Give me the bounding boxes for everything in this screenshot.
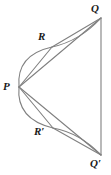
vertex-label-R-prime: R′ [34,126,44,137]
vertex-label-Q: Q [91,3,99,14]
geometry-figure: P Q R R′ Q′ [0,0,111,175]
segment-PQprime [19,87,101,155]
segment-PQ [19,18,101,87]
vertex-label-P: P [3,81,10,92]
segment-RprimeQprime [53,128,101,155]
figure-canvas [0,0,111,175]
segment-RQ [52,18,101,47]
vertex-label-R: R [38,31,45,42]
vertex-label-Q-prime: Q′ [90,158,101,169]
